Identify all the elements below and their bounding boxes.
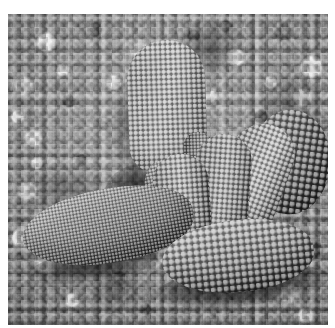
photograph <box>8 14 328 325</box>
header-strip <box>0 0 335 14</box>
